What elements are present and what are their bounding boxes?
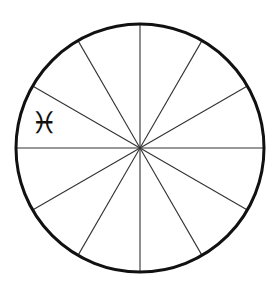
wheel-spoke <box>33 148 140 210</box>
wheel-spoke <box>78 41 140 148</box>
wheel-spoke <box>140 41 202 148</box>
wheel-spoke <box>140 148 202 255</box>
wheel-spoke <box>140 148 247 210</box>
pisces-icon: ♓ <box>31 108 58 138</box>
zodiac-wheel <box>0 0 279 288</box>
wheel-spoke <box>78 148 140 255</box>
wheel-spoke <box>140 86 247 148</box>
